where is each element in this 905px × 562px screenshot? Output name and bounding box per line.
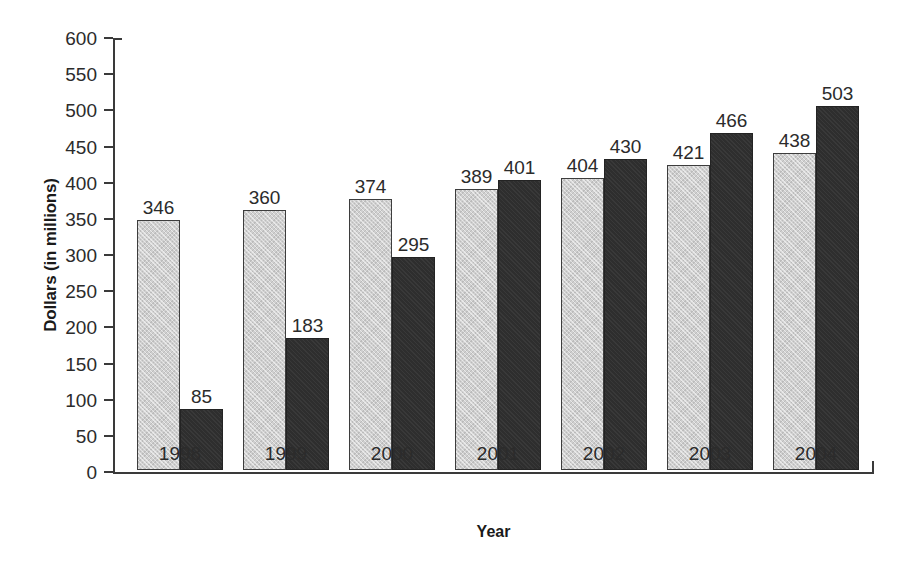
- y-axis-tick-label: 200: [65, 318, 97, 337]
- y-axis-tick: 200: [104, 326, 113, 328]
- y-axis-tick: 50: [104, 435, 113, 437]
- bar: 389: [455, 189, 498, 470]
- bar-value-label: 374: [355, 177, 387, 196]
- bar-value-label: 389: [461, 167, 493, 186]
- bar-value-label: 438: [779, 131, 811, 150]
- x-axis-tick-label: 1998: [159, 444, 201, 463]
- bar: 421: [667, 165, 710, 470]
- bar-value-label: 430: [610, 137, 642, 156]
- bar-value-label: 466: [716, 111, 748, 130]
- y-axis-tick-label: 300: [65, 246, 97, 265]
- bar: 404: [561, 178, 604, 470]
- y-axis-tick-label: 0: [86, 463, 97, 482]
- y-axis-line: [113, 38, 115, 472]
- y-axis-tick: 350: [104, 218, 113, 220]
- y-axis-tick: 500: [104, 109, 113, 111]
- y-axis-tick: 300: [104, 254, 113, 256]
- y-axis-tick: 600: [104, 37, 113, 39]
- bar: 466: [710, 133, 753, 470]
- bar: 503: [816, 106, 859, 470]
- bar: 360: [243, 210, 286, 470]
- bar-value-label: 401: [504, 158, 536, 177]
- x-axis-end-cap: [872, 461, 874, 474]
- bar: 401: [498, 180, 541, 470]
- y-axis-tick: 0: [104, 471, 113, 473]
- bar-value-label: 360: [249, 188, 281, 207]
- y-axis-tick-label: 100: [65, 390, 97, 409]
- y-axis-tick-label: 550: [65, 65, 97, 84]
- bar: 346: [137, 220, 180, 470]
- y-axis-tick-label: 600: [65, 29, 97, 48]
- bar: 430: [604, 159, 647, 470]
- y-axis-tick: 250: [104, 290, 113, 292]
- x-axis-tick-label: 2000: [371, 444, 413, 463]
- bar-chart: Dollars (in millions) 050100150200250300…: [0, 0, 905, 562]
- bar: 438: [773, 153, 816, 470]
- y-axis-tick-label: 50: [76, 426, 97, 445]
- y-axis-tick-label: 450: [65, 137, 97, 156]
- bar-value-label: 503: [822, 84, 854, 103]
- x-axis-line: [113, 472, 874, 474]
- bar-value-label: 183: [292, 316, 324, 335]
- bar: 295: [392, 257, 435, 470]
- bar-value-label: 404: [567, 156, 599, 175]
- x-axis-tick-label: 1999: [265, 444, 307, 463]
- y-axis-tick: 450: [104, 146, 113, 148]
- x-axis-title: Year: [113, 523, 874, 541]
- x-axis-tick-label: 2004: [795, 444, 837, 463]
- plot-area: 050100150200250300350400450500550600 346…: [113, 38, 874, 472]
- y-axis-tick-label: 400: [65, 173, 97, 192]
- y-axis-tick-label: 250: [65, 282, 97, 301]
- bar-value-label: 85: [191, 387, 212, 406]
- x-axis-tick-label: 2002: [583, 444, 625, 463]
- bar-value-label: 421: [673, 143, 705, 162]
- y-axis-tick-label: 150: [65, 354, 97, 373]
- y-axis-tick-label: 350: [65, 209, 97, 228]
- x-axis-tick-label: 2003: [689, 444, 731, 463]
- y-axis-tick: 550: [104, 73, 113, 75]
- x-axis-tick-label: 2001: [477, 444, 519, 463]
- y-axis-tick-label: 500: [65, 101, 97, 120]
- bar: 374: [349, 199, 392, 470]
- bar-value-label: 346: [143, 198, 175, 217]
- y-axis-tick: 100: [104, 399, 113, 401]
- y-axis-top-cap: [113, 38, 122, 40]
- y-axis-tick: 150: [104, 363, 113, 365]
- bar-value-label: 295: [398, 235, 430, 254]
- y-axis-tick: 400: [104, 182, 113, 184]
- y-axis-title: Dollars (in millions): [34, 38, 68, 472]
